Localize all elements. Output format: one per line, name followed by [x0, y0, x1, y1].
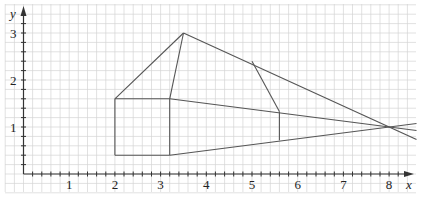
- axes: [21, 6, 415, 177]
- ridge-receding-line: [184, 33, 417, 140]
- x-axis-label: x: [405, 177, 412, 192]
- x-tick-label: 5: [249, 177, 256, 192]
- roof-right-edge: [170, 33, 184, 99]
- back-roof-edge: [252, 61, 279, 111]
- y-tick-label: 1: [10, 120, 17, 135]
- perspective-diagram: 12345678123xy: [0, 0, 423, 198]
- x-tick-label: 8: [386, 177, 393, 192]
- x-tick-label: 2: [112, 177, 119, 192]
- y-axis-label: y: [8, 6, 16, 21]
- y-tick-label: 3: [10, 26, 17, 41]
- roof-left-edge: [115, 33, 184, 99]
- y-axis-arrow-icon: [21, 6, 27, 16]
- y-tick-label: 2: [10, 73, 17, 88]
- x-tick-label: 3: [157, 177, 164, 192]
- bottom-receding-line: [170, 124, 417, 156]
- x-tick-label: 6: [294, 177, 301, 192]
- perspective-shape: [115, 33, 417, 155]
- top-receding-line: [170, 99, 417, 131]
- x-tick-label: 4: [203, 177, 210, 192]
- x-tick-label: 1: [66, 177, 73, 192]
- grid: [5, 4, 416, 193]
- x-tick-label: 7: [340, 177, 347, 192]
